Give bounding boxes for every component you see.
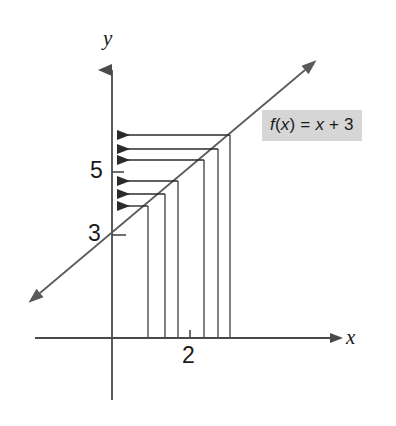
function-equation-label: f(x) = x + 3	[262, 110, 362, 141]
y-tick-label-5: 5	[90, 159, 103, 182]
horizontal-mapping-arrows	[117, 135, 230, 206]
y-axis	[112, 70, 126, 400]
x-axis-label: x	[346, 327, 355, 348]
function-expression-variable: x	[315, 115, 324, 134]
vertical-mapping-lines	[148, 135, 230, 338]
function-graph-figure: y x 5 3 2 f(x) = x + 3	[0, 0, 396, 426]
y-tick-label-3: 3	[88, 222, 101, 245]
function-argument: x	[281, 115, 290, 134]
x-axis	[35, 330, 330, 338]
x-tick-label-2: 2	[182, 344, 195, 367]
graph-canvas	[0, 0, 396, 426]
function-equals: =	[295, 115, 315, 134]
y-axis-label: y	[103, 28, 112, 49]
function-expression-constant: + 3	[324, 115, 354, 134]
